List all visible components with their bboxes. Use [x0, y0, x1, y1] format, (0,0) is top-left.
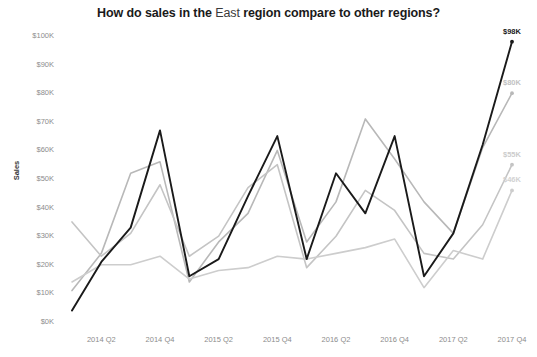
- series-endpoint-marker: [510, 40, 514, 44]
- series-endpoint-marker: [510, 163, 514, 167]
- series-end-label: $98K: [503, 26, 521, 35]
- series-lines: [72, 40, 514, 311]
- series-endpoint-marker: [510, 189, 514, 193]
- series-endpoint-marker: [510, 91, 514, 95]
- series-line: [72, 42, 512, 311]
- line-chart-visualization: How do sales in the East region compare …: [0, 0, 537, 357]
- plot-area: [0, 0, 537, 357]
- series-end-label: $55K: [503, 149, 521, 158]
- series-line: [72, 165, 512, 268]
- series-end-label: $80K: [503, 78, 521, 87]
- series-end-label: $46K: [503, 175, 521, 184]
